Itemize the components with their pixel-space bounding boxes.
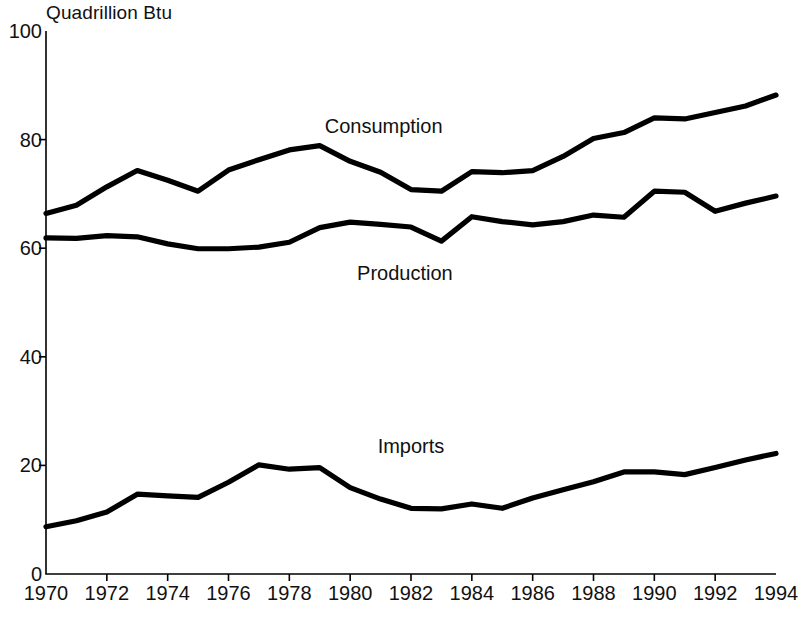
series-label-imports: Imports [378,435,445,458]
plot-area [0,0,806,632]
series-line-imports [46,453,776,526]
axis-spine [46,31,776,574]
series-line-consumption [46,95,776,213]
series-label-production: Production [357,262,453,285]
series-line-production [46,191,776,249]
line-chart: Quadrillion Btu 020406080100 19701972197… [0,0,806,632]
series-label-consumption: Consumption [325,115,443,138]
